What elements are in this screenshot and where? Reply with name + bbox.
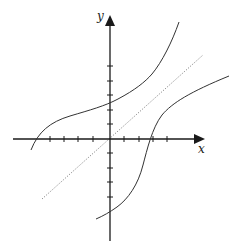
graph-figure: y x <box>0 0 234 251</box>
function-curve <box>31 22 179 150</box>
y-axis-arrow-icon <box>105 15 115 26</box>
y-axis-label: y <box>96 9 104 23</box>
graph-svg: y x <box>0 0 234 251</box>
reflection-line-y-equals-x <box>42 55 203 199</box>
x-axis-label: x <box>198 142 205 156</box>
inverse-function-curve <box>96 76 229 219</box>
